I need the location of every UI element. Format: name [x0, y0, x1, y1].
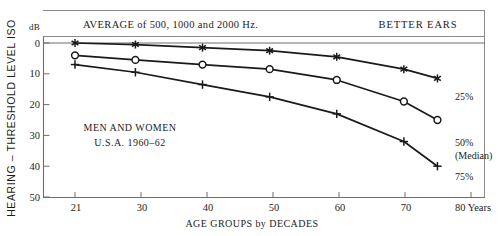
- x-tick-label-50: 50: [269, 202, 280, 213]
- plus-cross-marker: [131, 68, 139, 76]
- y-tick-label-50: 50: [30, 192, 41, 203]
- x-tick-label-40: 40: [203, 202, 214, 213]
- chart-svg: 0 10 20 30 40 50 dB HEARING – THRESHOLD …: [0, 0, 504, 236]
- open-circle-marker: [400, 98, 407, 105]
- open-circle-marker: [199, 61, 206, 68]
- x-tick-label-60: 60: [335, 202, 346, 213]
- y-axis-title: HEARING – THRESHOLD LEVEL ISO: [5, 19, 17, 217]
- plus-cross-marker: [333, 110, 341, 118]
- open-circle-marker: [132, 57, 139, 64]
- y-tick-label-20: 20: [30, 99, 41, 110]
- x-tick-label-30: 30: [137, 202, 148, 213]
- y-tick-label-40: 40: [30, 161, 41, 172]
- open-circle-marker: [72, 52, 79, 59]
- open-circle-marker: [434, 117, 441, 124]
- x-tick-label-80: 80 Years: [455, 202, 491, 213]
- series-label-25: 25%: [455, 91, 473, 102]
- plus-cross-marker: [71, 60, 79, 68]
- y-axis-tick-labels: 0 10 20 30 40 50: [30, 38, 41, 203]
- series-label-75: 75%: [455, 171, 473, 182]
- plot-annotation-line-2: U.S.A. 1960–62: [94, 137, 165, 148]
- header-left-note: AVERAGE of 500, 1000 and 2000 Hz.: [83, 19, 258, 30]
- series-1: [72, 39, 441, 82]
- plot-annotation-line-1: MEN AND WOMEN: [84, 122, 177, 133]
- x-axis-title: AGE GROUPS by DECADES: [185, 218, 318, 229]
- plus-cross-marker: [198, 80, 206, 88]
- header-right-note: BETTER EARS: [378, 19, 457, 30]
- y-tick-label-30: 30: [30, 130, 41, 141]
- series-layer: [71, 39, 442, 170]
- x-axis-tick-labels: 21 30 40 50 60 70 80 Years: [71, 202, 491, 213]
- y-tick-label-10: 10: [30, 68, 41, 79]
- series-2: [72, 52, 441, 123]
- series-label-50-median: (Median): [455, 150, 492, 162]
- series-line: [75, 65, 437, 167]
- x-axis-ticks: [75, 192, 471, 198]
- y-tick-label-0: 0: [35, 38, 40, 49]
- series-label-50: 50%: [455, 137, 473, 148]
- y-axis-unit-label: dB: [29, 22, 40, 32]
- plus-cross-marker: [265, 93, 273, 101]
- series-line: [75, 43, 437, 78]
- open-circle-marker: [333, 77, 340, 84]
- series-legend-inline: 25% 50% (Median) 75%: [455, 91, 492, 182]
- series-3: [71, 60, 442, 170]
- x-tick-label-70: 70: [401, 202, 412, 213]
- open-circle-marker: [266, 66, 273, 73]
- chart-frame: [43, 11, 485, 198]
- chart-figure: 0 10 20 30 40 50 dB HEARING – THRESHOLD …: [0, 0, 504, 236]
- y-axis-ticks: [44, 43, 50, 197]
- x-tick-label-21: 21: [71, 202, 82, 213]
